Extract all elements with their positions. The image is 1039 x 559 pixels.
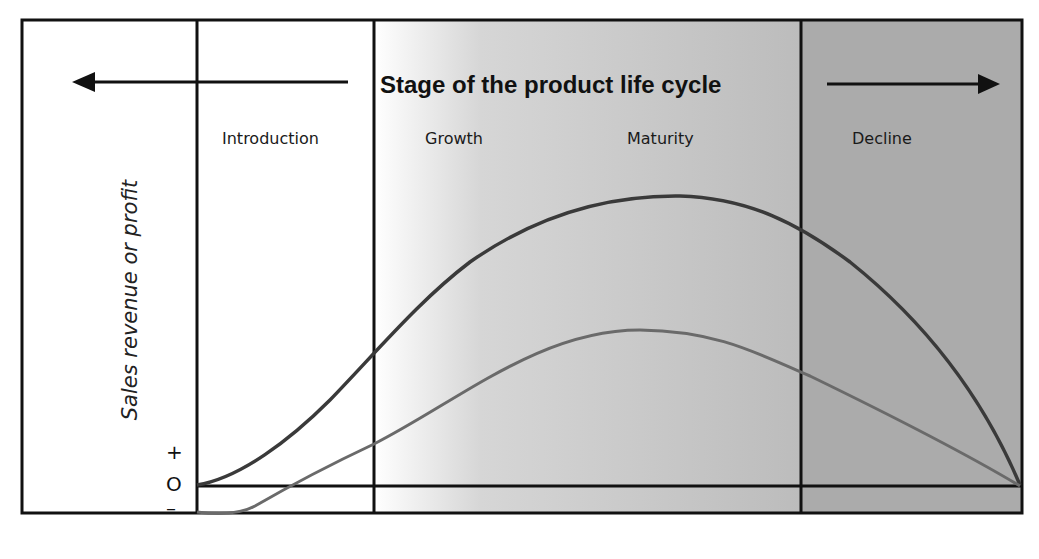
arrow-left-icon — [72, 72, 348, 92]
stage-label-introduction: Introduction — [222, 129, 319, 148]
stage-label-growth: Growth — [425, 129, 483, 148]
stage-label-maturity: Maturity — [627, 129, 694, 148]
stage-label-decline: Decline — [852, 129, 912, 148]
decline-region — [801, 20, 1022, 513]
y-tick-zero: O — [166, 472, 182, 496]
y-tick-plus: + — [166, 440, 183, 464]
y-axis-label: Sales revenue or profit — [118, 180, 142, 420]
y-tick-minus: – — [166, 496, 176, 520]
diagram-title: Stage of the product life cycle — [380, 71, 721, 99]
